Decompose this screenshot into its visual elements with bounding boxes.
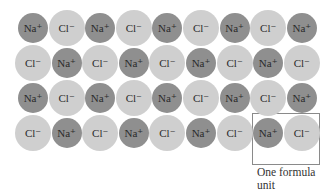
- chloride-ion: Cl⁻: [49, 10, 85, 46]
- chloride-ion: Cl⁻: [149, 115, 185, 151]
- chloride-ion: Cl⁻: [217, 45, 253, 81]
- sodium-ion: Na⁺: [186, 118, 216, 148]
- formula-unit-caption: One formula unit: [257, 166, 315, 192]
- sodium-ion: Na⁺: [253, 118, 283, 148]
- chloride-ion: Cl⁻: [82, 115, 118, 151]
- sodium-ion: Na⁺: [253, 48, 283, 78]
- chloride-ion: Cl⁻: [217, 115, 253, 151]
- sodium-ion: Na⁺: [152, 13, 182, 43]
- chloride-ion: Cl⁻: [149, 45, 185, 81]
- sodium-ion: Na⁺: [220, 13, 250, 43]
- chloride-ion: Cl⁻: [183, 80, 219, 116]
- caption-line-1: One formula: [257, 166, 315, 179]
- sodium-ion: Na⁺: [287, 83, 317, 113]
- sodium-ion: Na⁺: [52, 48, 82, 78]
- caption-line-2: unit: [257, 179, 315, 192]
- sodium-ion: Na⁺: [220, 83, 250, 113]
- chloride-ion: Cl⁻: [82, 45, 118, 81]
- chloride-ion: Cl⁻: [116, 10, 152, 46]
- sodium-ion: Na⁺: [119, 48, 149, 78]
- chloride-ion: Cl⁻: [15, 115, 51, 151]
- chloride-ion: Cl⁻: [49, 80, 85, 116]
- sodium-ion: Na⁺: [18, 83, 48, 113]
- chloride-ion: Cl⁻: [116, 80, 152, 116]
- chloride-ion: Cl⁻: [284, 45, 320, 81]
- chloride-ion: Cl⁻: [250, 10, 286, 46]
- sodium-ion: Na⁺: [186, 48, 216, 78]
- chloride-ion: Cl⁻: [250, 80, 286, 116]
- sodium-ion: Na⁺: [52, 118, 82, 148]
- chloride-ion: Cl⁻: [284, 115, 320, 151]
- sodium-ion: Na⁺: [18, 13, 48, 43]
- chloride-ion: Cl⁻: [15, 45, 51, 81]
- sodium-ion: Na⁺: [287, 13, 317, 43]
- sodium-ion: Na⁺: [152, 83, 182, 113]
- sodium-ion: Na⁺: [85, 13, 115, 43]
- chloride-ion: Cl⁻: [183, 10, 219, 46]
- sodium-ion: Na⁺: [119, 118, 149, 148]
- sodium-ion: Na⁺: [85, 83, 115, 113]
